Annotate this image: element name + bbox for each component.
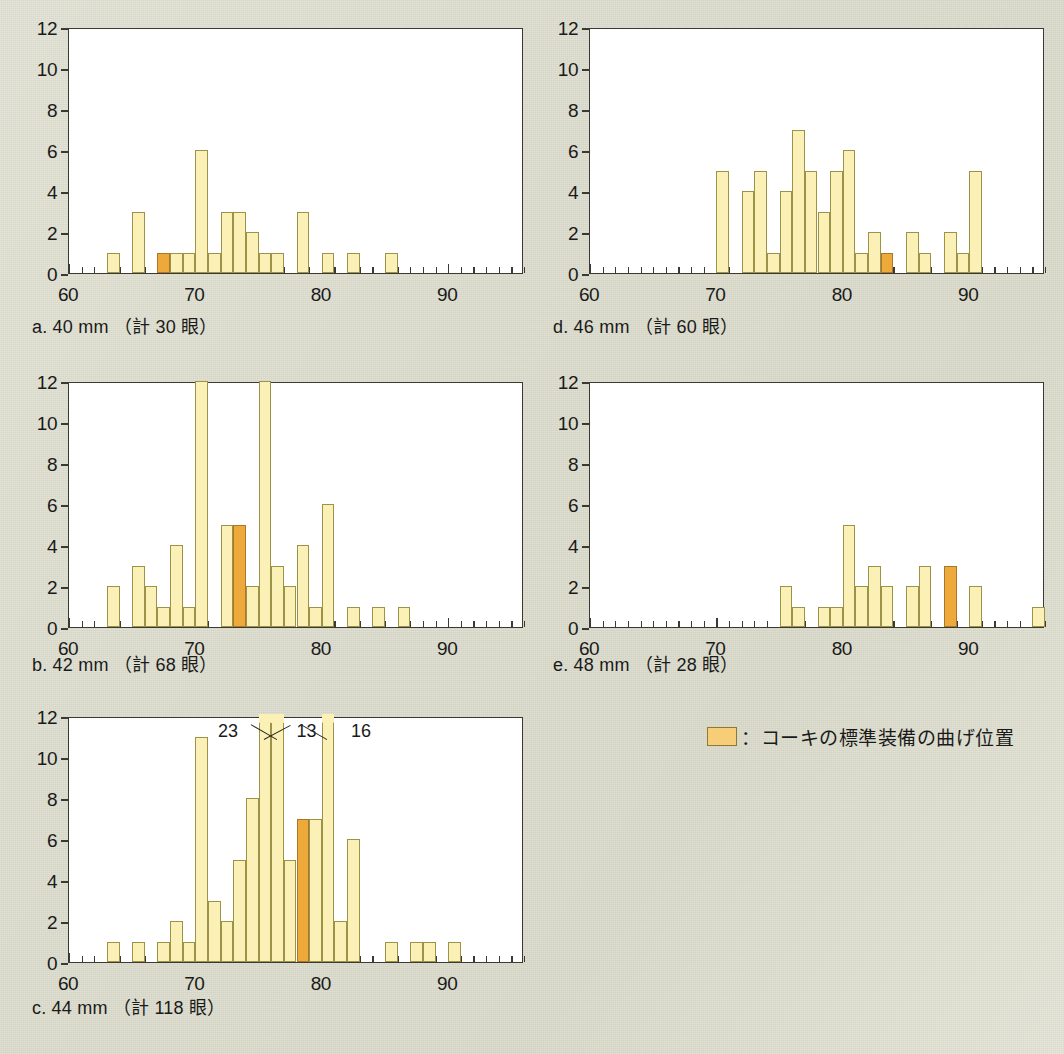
bar-e-x90-y2 <box>969 586 982 627</box>
bar-c-x79-y7 <box>309 819 322 963</box>
y-tick-d-8 <box>582 110 589 112</box>
x-tick-label-c-80: 80 <box>311 974 331 993</box>
bar-a-x72-y3 <box>221 212 234 274</box>
y-tick-a-6 <box>61 151 68 153</box>
plot-area-d <box>589 28 1044 274</box>
bar-c-x69-y1 <box>183 942 196 963</box>
y-tick-b-4 <box>61 546 68 548</box>
y-tick-c-4 <box>61 881 68 883</box>
bar-b-x63-y2 <box>107 586 120 627</box>
y-tick-c-10 <box>61 758 68 760</box>
y-tick-label-b-10: 10 <box>37 414 57 433</box>
bars-layer-c <box>69 718 522 962</box>
bar-a-x65-y3 <box>132 212 145 274</box>
y-tick-e-12 <box>582 382 589 384</box>
bar-c-x72-y2 <box>221 921 234 962</box>
y-tick-d-12 <box>582 28 589 30</box>
bar-a-x67-y1 <box>157 253 170 274</box>
y-tick-e-2 <box>582 587 589 589</box>
bar-a-x76-y1 <box>271 253 284 274</box>
y-tick-label-e-2: 2 <box>568 578 578 597</box>
y-tick-label-d-6: 6 <box>568 142 578 161</box>
bar-c-x88-y1 <box>423 942 436 963</box>
panel-caption-e: e. 48 mm （計 28 眼） <box>553 650 738 676</box>
bar-b-x69-y1 <box>183 607 196 628</box>
x-tick-d-96 <box>1045 267 1046 273</box>
bar-d-x78-y3 <box>818 212 831 274</box>
y-tick-label-c-12: 12 <box>37 708 57 727</box>
y-tick-label-d-4: 4 <box>568 183 578 202</box>
y-tick-a-2 <box>61 233 68 235</box>
y-tick-label-e-6: 6 <box>568 496 578 515</box>
y-tick-a-10 <box>61 69 68 71</box>
y-axis-e: 024681012 <box>549 382 589 628</box>
bar-a-x69-y1 <box>183 253 196 274</box>
legend-label: ：コーキの標準装備の曲げ位置 <box>741 723 1014 750</box>
annotation-value-16: 16 <box>351 721 371 742</box>
bar-e-x88-y3 <box>944 566 957 628</box>
bar-c-x71-y3 <box>208 901 221 963</box>
bar-b-x79-y1 <box>309 607 322 628</box>
y-tick-label-d-0: 0 <box>568 265 578 284</box>
y-tick-d-2 <box>582 233 589 235</box>
bar-b-x68-y4 <box>170 545 183 627</box>
y-tick-label-c-4: 4 <box>47 872 57 891</box>
bar-e-x95-y1 <box>1032 607 1045 628</box>
x-tick-label-d-80: 80 <box>832 285 852 304</box>
bar-b-x86-y1 <box>398 607 411 628</box>
y-tick-label-d-12: 12 <box>558 19 578 38</box>
bar-a-x82-y1 <box>347 253 360 274</box>
y-tick-d-10 <box>582 69 589 71</box>
bar-e-x79-y1 <box>830 607 843 628</box>
y-tick-label-a-8: 8 <box>47 101 57 120</box>
bar-b-x82-y1 <box>347 607 360 628</box>
bar-d-x89-y1 <box>957 253 970 274</box>
bar-d-x76-y7 <box>792 130 805 274</box>
x-tick-label-a-60: 60 <box>58 285 78 304</box>
bar-c-x81-y2 <box>334 921 347 962</box>
bar-d-x77-y5 <box>805 171 818 274</box>
bars-layer-b <box>69 383 522 627</box>
bar-d-x88-y2 <box>944 232 957 273</box>
y-tick-label-a-10: 10 <box>37 60 57 79</box>
y-tick-label-e-4: 4 <box>568 537 578 556</box>
y-tick-label-b-2: 2 <box>47 578 57 597</box>
bar-a-x78-y3 <box>297 212 310 274</box>
bar-a-x71-y1 <box>208 253 221 274</box>
bar-b-x70-y12 <box>195 381 208 627</box>
y-tick-label-b-6: 6 <box>47 496 57 515</box>
bar-d-x85-y2 <box>906 232 919 273</box>
bar-a-x70-y6 <box>195 150 208 273</box>
bar-b-x66-y2 <box>145 586 158 627</box>
y-tick-label-d-10: 10 <box>558 60 578 79</box>
y-tick-label-c-10: 10 <box>37 749 57 768</box>
bar-a-x85-y1 <box>385 253 398 274</box>
bar-d-x86-y1 <box>919 253 932 274</box>
bar-b-x80-y6 <box>322 504 335 627</box>
bar-d-x82-y2 <box>868 232 881 273</box>
y-tick-label-c-0: 0 <box>47 954 57 973</box>
bar-c-x70-y11 <box>195 737 208 963</box>
y-tick-c-2 <box>61 922 68 924</box>
bar-b-x77-y2 <box>284 586 297 627</box>
y-axis-b: 024681012 <box>28 382 68 628</box>
legend-highlight-swatch <box>707 727 737 746</box>
bars-layer-e <box>590 383 1043 627</box>
bar-c-x73-y5 <box>233 860 246 963</box>
y-tick-label-c-2: 2 <box>47 913 57 932</box>
y-tick-label-a-0: 0 <box>47 265 57 284</box>
x-tick-label-d-70: 70 <box>705 285 725 304</box>
bar-c-x65-y1 <box>132 942 145 963</box>
y-tick-c-12 <box>61 717 68 719</box>
y-tick-e-8 <box>582 464 589 466</box>
bar-e-x78-y1 <box>818 607 831 628</box>
bar-b-x76-y3 <box>271 566 284 628</box>
panel-caption-b: b. 42 mm （計 68 眼） <box>32 650 217 676</box>
y-tick-label-e-0: 0 <box>568 619 578 638</box>
y-tick-label-e-12: 12 <box>558 373 578 392</box>
y-axis-a: 024681012 <box>28 28 68 274</box>
bar-c-x80-y16 <box>322 714 335 962</box>
bar-d-x90-y5 <box>969 171 982 274</box>
y-tick-d-0 <box>582 274 589 276</box>
bar-c-x82-y6 <box>347 839 360 962</box>
